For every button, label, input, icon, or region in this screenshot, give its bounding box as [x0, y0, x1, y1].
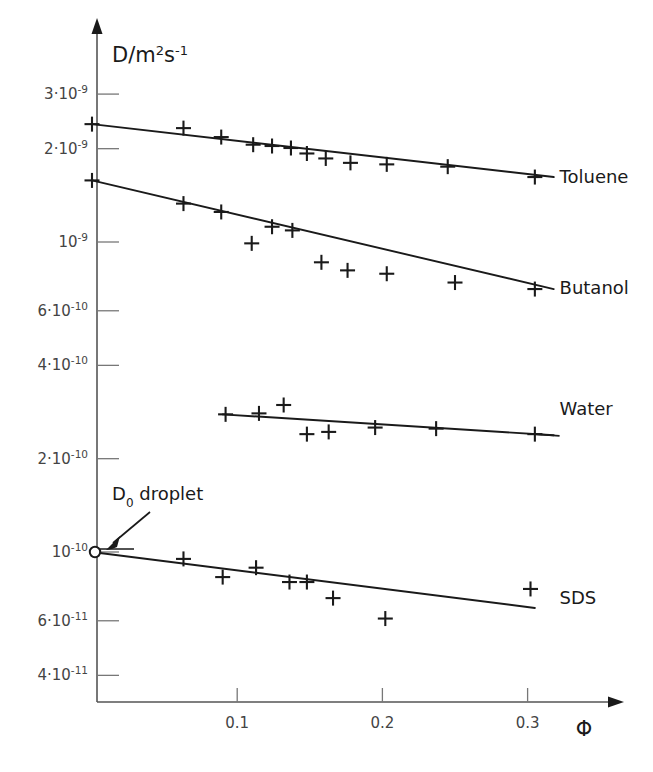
- x-tick-label: 0.1: [225, 714, 249, 732]
- d0-droplet-marker-icon: [90, 547, 100, 557]
- series-label: Toluene: [559, 166, 629, 187]
- series-label: SDS: [560, 587, 597, 608]
- x-tick-label: 0.3: [516, 714, 540, 732]
- chart-background: [0, 0, 653, 772]
- series-label: Butanol: [560, 277, 629, 298]
- diffusion-coefficient-chart: D/m2s-1Φ3·10-92·10-910-96·10-104·10-102·…: [0, 0, 653, 772]
- x-axis-title: Φ: [576, 717, 593, 741]
- series-label: Water: [560, 398, 614, 419]
- x-tick-label: 0.2: [370, 714, 394, 732]
